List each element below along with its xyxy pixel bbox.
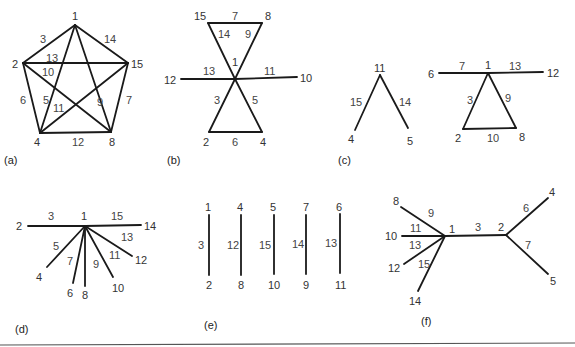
vertex-label: 14 <box>409 295 421 307</box>
edge-label: 7 <box>232 10 238 22</box>
vertex-label: 8 <box>82 289 88 301</box>
vertex-label: 4 <box>237 201 243 213</box>
vertex-label: 2 <box>203 136 209 148</box>
edge-label: 3 <box>40 33 46 45</box>
vertex-label: 2 <box>206 279 212 291</box>
edge-label: 13 <box>509 60 521 72</box>
edge-label: 14 <box>292 238 304 250</box>
edge-line <box>445 235 506 236</box>
edge-label: 5 <box>53 240 59 252</box>
edge-label: 3 <box>48 210 54 222</box>
edge-label: 10 <box>487 132 499 144</box>
edge-label: 15 <box>418 258 430 270</box>
edge-label: 9 <box>245 28 251 40</box>
panel-e: 312151413124851079611(e) <box>198 201 346 331</box>
edge-line <box>75 25 128 63</box>
bottom-rule-divider <box>0 343 575 345</box>
edge-line <box>73 226 85 283</box>
vertex-label: 2 <box>16 220 22 232</box>
edge-label: 7 <box>126 94 132 106</box>
edge-label: 11 <box>410 222 421 234</box>
vertex-label: 1 <box>449 223 455 235</box>
edge-label: 7 <box>459 60 465 72</box>
panel-caption: (d) <box>15 323 28 335</box>
edge-label: 15 <box>259 239 271 251</box>
vertex-label: 10 <box>112 282 124 294</box>
edge-label: 7 <box>525 239 531 251</box>
edge-label: 7 <box>67 255 73 267</box>
vertex-label: 2 <box>12 58 18 70</box>
vertex-label: 12 <box>135 254 147 266</box>
edge-label: 11 <box>53 102 64 114</box>
vertex-label: 8 <box>265 10 271 22</box>
vertex-label: 8 <box>519 131 525 143</box>
graph-figure: 314131065911712121548(a)7149131135615811… <box>0 0 575 347</box>
vertex-label: 15 <box>131 58 143 70</box>
vertex-label: 4 <box>260 136 266 148</box>
vertex-label: 1 <box>205 201 211 213</box>
vertex-label: 8 <box>238 279 244 291</box>
vertex-label: 8 <box>393 195 399 207</box>
vertex-label: 11 <box>335 279 346 291</box>
edge-label: 9 <box>505 92 511 104</box>
edge-line <box>401 207 445 236</box>
vertex-label: 5 <box>550 275 556 287</box>
vertex-label: 1 <box>81 210 87 222</box>
vertex-label: 6 <box>428 68 434 80</box>
edge-label: 13 <box>325 237 337 249</box>
vertex-label: 2 <box>498 221 504 233</box>
edge-line <box>209 79 235 132</box>
edge-line <box>85 225 141 226</box>
vertex-label: 7 <box>303 201 309 213</box>
edge-label: 13 <box>46 52 58 64</box>
panel-caption: (c) <box>338 154 351 166</box>
vertex-label: 11 <box>374 62 385 74</box>
edge-label: 12 <box>227 239 239 251</box>
vertex-label: 2 <box>455 132 461 144</box>
panel-caption: (f) <box>421 315 431 327</box>
vertex-label: 1 <box>72 10 78 22</box>
edge-label: 11 <box>264 65 275 77</box>
vertex-label: 1 <box>485 59 491 71</box>
edge-label: 13 <box>409 239 421 251</box>
vertex-label: 10 <box>268 279 280 291</box>
vertex-label: 12 <box>164 74 176 86</box>
vertex-label: 5 <box>407 135 413 147</box>
edge-line <box>488 73 516 128</box>
edge-label: 9 <box>93 258 99 270</box>
edge-label: 6 <box>20 94 26 106</box>
vertex-label: 1 <box>232 56 238 68</box>
vertex-label: 15 <box>194 10 206 22</box>
vertex-label: 12 <box>388 262 400 274</box>
panel-caption: (b) <box>167 154 180 166</box>
vertex-label: 14 <box>144 220 156 232</box>
vertex-label: 10 <box>385 230 397 242</box>
vertex-label: 12 <box>547 67 559 79</box>
panel-f: 911131536781012141245(f) <box>385 186 556 327</box>
edge-label: 3 <box>198 239 204 251</box>
vertex-label: 4 <box>348 133 354 145</box>
panel-caption: (a) <box>4 154 17 166</box>
panels-layer: 314131065911712121548(a)7149131135615811… <box>4 10 559 335</box>
edge-label: 3 <box>214 94 220 106</box>
panel-c: 151471339101145611228(c) <box>338 59 559 166</box>
vertex-label: 8 <box>109 136 115 148</box>
vertex-label: 4 <box>34 136 40 148</box>
panel-caption: (e) <box>204 319 217 331</box>
edge-label: 14 <box>218 28 230 40</box>
edge-label: 6 <box>232 136 238 148</box>
vertex-label: 6 <box>336 201 342 213</box>
edge-label: 10 <box>42 66 54 78</box>
edge-label: 5 <box>252 94 258 106</box>
vertex-label: 4 <box>549 186 555 198</box>
edge-line <box>463 128 516 129</box>
edge-label: 3 <box>467 94 473 106</box>
vertex-label: 9 <box>303 279 309 291</box>
edge-label: 15 <box>111 210 123 222</box>
panel-b: 714913113561581121024(b) <box>164 10 312 166</box>
edge-label: 15 <box>350 96 362 108</box>
edge-label: 9 <box>428 207 434 219</box>
edge-label: 13 <box>121 231 133 243</box>
edge-label: 11 <box>109 249 120 261</box>
edge-label: 14 <box>399 96 411 108</box>
